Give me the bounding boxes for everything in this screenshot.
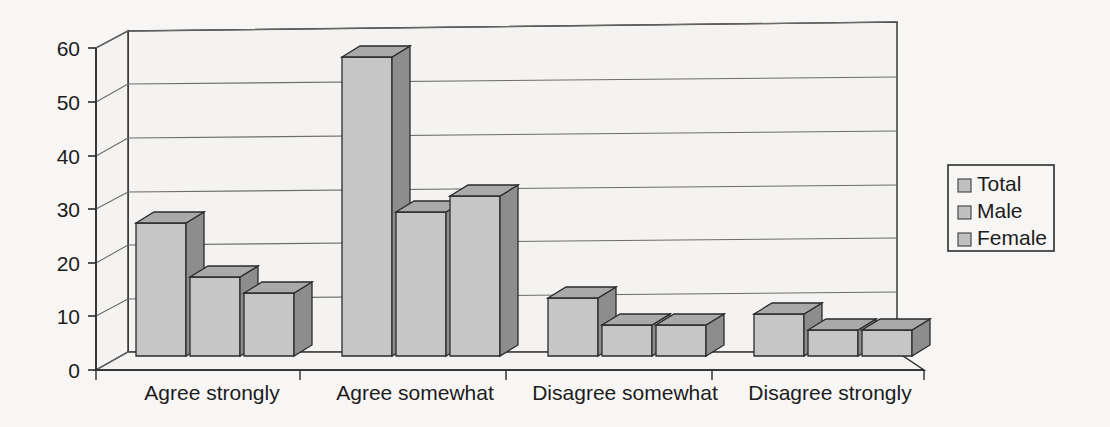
y-tick-label-30: 30 (57, 198, 80, 221)
legend-label-total: Total (977, 172, 1021, 195)
y-axis: 60 50 40 30 20 10 0 (57, 37, 96, 382)
bar-front-face (862, 330, 912, 356)
bar-disagree-somewhat-female[interactable] (656, 314, 724, 356)
category-label-agree-somewhat: Agree somewhat (336, 381, 494, 404)
bar-front-face (190, 277, 240, 356)
legend-swatch-icon (958, 179, 971, 192)
bar-front-face (342, 57, 392, 356)
legend-label-male: Male (977, 199, 1023, 222)
category-label-agree-strongly: Agree strongly (144, 381, 280, 404)
category-label-disagree-strongly: Disagree strongly (748, 381, 912, 404)
chart-container: 60 50 40 30 20 10 0 (0, 0, 1110, 427)
bar-agree-strongly-female[interactable] (244, 282, 312, 356)
category-labels: Agree strongly Agree somewhat Disagree s… (144, 381, 912, 404)
y-tick-label-10: 10 (57, 305, 80, 328)
y-tick-label-0: 0 (68, 359, 80, 382)
bar-front-face (244, 293, 294, 356)
bar-agree-somewhat-female[interactable] (450, 185, 518, 356)
bar-front-face (548, 298, 598, 356)
legend: Total Male Female (948, 165, 1054, 251)
category-label-disagree-somewhat: Disagree somewhat (532, 381, 718, 404)
y-tick-label-60: 60 (57, 37, 80, 60)
legend-swatch-icon (958, 233, 971, 246)
y-tick-label-40: 40 (57, 145, 80, 168)
bar-side-face (500, 185, 518, 356)
bar-front-face (450, 196, 500, 356)
y-tick-label-50: 50 (57, 91, 80, 114)
x-axis (96, 370, 924, 380)
y-tick-label-20: 20 (57, 252, 80, 275)
bar-front-face (396, 212, 446, 356)
bar-disagree-strongly-female[interactable] (862, 319, 930, 356)
bar-front-face (602, 325, 652, 356)
bar-side-face (294, 282, 312, 356)
bar-front-face (808, 330, 858, 356)
bar-front-face (754, 314, 804, 356)
bar-front-face (136, 223, 186, 356)
bar-front-face (656, 325, 706, 356)
legend-label-female: Female (977, 226, 1047, 249)
legend-swatch-icon (958, 206, 971, 219)
bar-chart-3d: 60 50 40 30 20 10 0 (0, 0, 1110, 427)
